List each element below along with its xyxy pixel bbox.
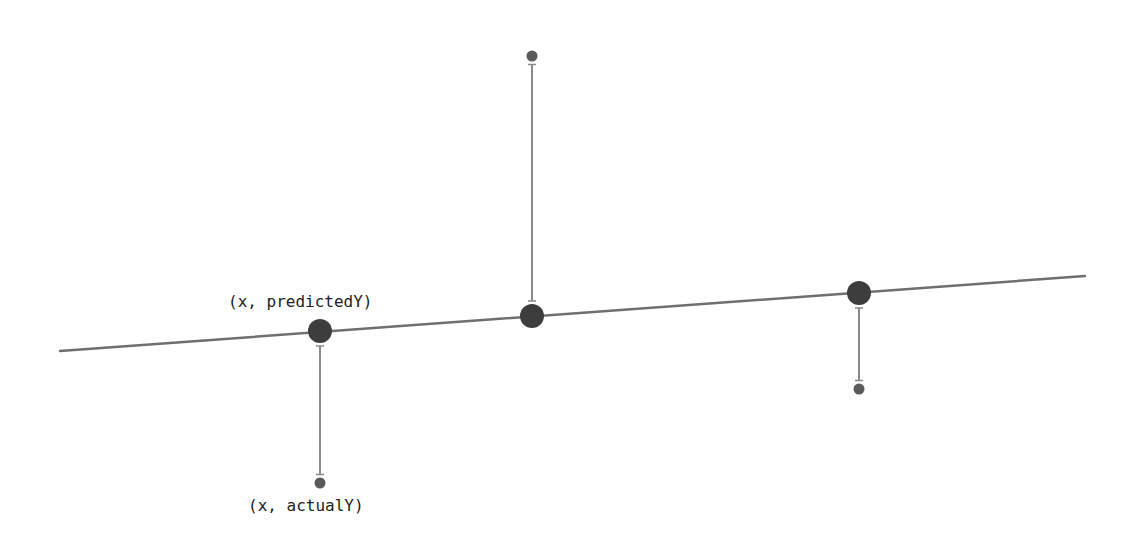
actual-point [527, 51, 538, 62]
points-layer [308, 51, 871, 489]
actual-point [854, 384, 865, 395]
predicted-point [308, 319, 332, 343]
predicted-point [520, 304, 544, 328]
predicted-point [847, 281, 871, 305]
residual-group [847, 281, 871, 395]
actual-point [315, 478, 326, 489]
regression-line [60, 276, 1085, 351]
predicted-point-label: (x, predictedY) [228, 292, 373, 311]
regression-diagram [0, 0, 1138, 542]
residual-group [520, 51, 544, 329]
actual-point-label: (x, actualY) [248, 496, 364, 515]
residual-group [308, 319, 332, 489]
